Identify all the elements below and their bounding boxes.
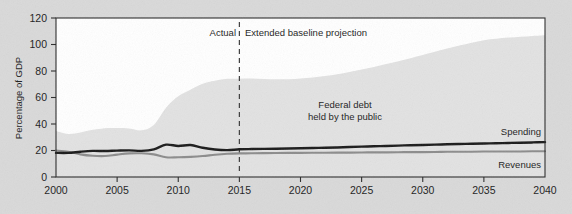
x-tick-label: 2030 <box>411 184 435 196</box>
gdp-projection-chart: 020406080100120 200020052010201520202025… <box>0 0 572 214</box>
y-tick-label: 100 <box>29 38 47 50</box>
x-tick-label: 2005 <box>105 184 129 196</box>
x-tick-label: 2035 <box>472 184 496 196</box>
y-tick-label: 80 <box>35 65 47 77</box>
debt-label-line2: held by the public <box>308 111 382 122</box>
chart-figure: 020406080100120 200020052010201520202025… <box>0 0 572 214</box>
projection-label: Extended baseline projection <box>245 27 367 38</box>
y-tick-label: 20 <box>35 144 47 156</box>
x-tick-label: 2020 <box>289 184 313 196</box>
y-tick-label: 40 <box>35 118 47 130</box>
x-axis-ticks: 200020052010201520202025203020352040 <box>44 177 557 196</box>
x-tick-label: 2040 <box>533 184 557 196</box>
x-tick-label: 2000 <box>44 184 68 196</box>
y-axis-ticks: 020406080100120 <box>29 12 56 183</box>
y-axis-title: Percentage of GDP <box>13 57 24 139</box>
x-tick-label: 2025 <box>350 184 374 196</box>
x-tick-label: 2010 <box>167 184 191 196</box>
spending-series-label: Spending <box>501 126 541 137</box>
debt-label-line1: Federal debt <box>318 99 372 110</box>
revenues-series-label: Revenues <box>498 159 541 170</box>
y-tick-label: 0 <box>41 171 47 183</box>
x-tick-label: 2015 <box>228 184 252 196</box>
y-tick-label: 60 <box>35 91 47 103</box>
y-tick-label: 120 <box>29 12 47 24</box>
actual-label: Actual <box>210 27 236 38</box>
